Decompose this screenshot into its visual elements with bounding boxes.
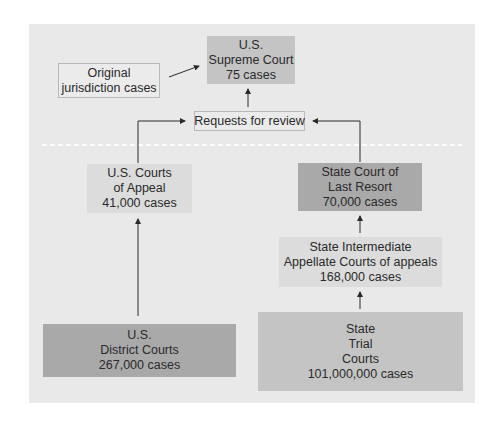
node-state-court-last-resort: State Court of Last Resort 70,000 cases bbox=[298, 163, 422, 211]
node-label: 101,000,000 cases bbox=[308, 367, 414, 382]
node-label: State Intermediate bbox=[309, 240, 411, 255]
node-label: 168,000 cases bbox=[320, 270, 401, 285]
node-us-supreme-court: U.S. Supreme Court 75 cases bbox=[207, 36, 295, 84]
node-label: Requests for review bbox=[194, 114, 304, 129]
node-label: Trial bbox=[349, 337, 373, 352]
node-label: U.S. bbox=[239, 38, 263, 53]
node-label: 41,000 cases bbox=[102, 196, 176, 211]
node-label: Original bbox=[87, 66, 130, 81]
node-label: Last Resort bbox=[328, 180, 392, 195]
node-label: Courts bbox=[342, 352, 379, 367]
node-label: Supreme Court bbox=[209, 53, 294, 68]
node-us-courts-of-appeal: U.S. Courts of Appeal 41,000 cases bbox=[87, 164, 192, 213]
node-state-trial-courts: State Trial Courts 101,000,000 cases bbox=[258, 312, 463, 391]
arrow-appeals-to-requests bbox=[138, 121, 185, 163]
node-us-district-courts: U.S. District Courts 267,000 cases bbox=[43, 324, 236, 377]
node-label: of Appeal bbox=[113, 181, 165, 196]
node-label: 70,000 cases bbox=[323, 195, 397, 210]
node-original-jurisdiction: Original jurisdiction cases bbox=[58, 63, 160, 98]
node-label: U.S. Courts bbox=[107, 166, 172, 181]
node-label: jurisdiction cases bbox=[61, 81, 156, 96]
node-requests-for-review: Requests for review bbox=[194, 111, 305, 131]
node-label: 267,000 cases bbox=[99, 358, 180, 373]
node-label: District Courts bbox=[100, 343, 178, 358]
arrow-original-to-supreme bbox=[169, 66, 199, 77]
node-label: State bbox=[346, 322, 375, 337]
node-label: Appellate Courts of appeals bbox=[284, 255, 438, 270]
node-label: State Court of bbox=[321, 165, 398, 180]
node-label: U.S. bbox=[127, 328, 151, 343]
node-label: 75 cases bbox=[226, 68, 276, 83]
node-state-intermediate-appellate: State Intermediate Appellate Courts of a… bbox=[279, 237, 442, 287]
arrow-lastresort-to-requests bbox=[313, 121, 360, 162]
